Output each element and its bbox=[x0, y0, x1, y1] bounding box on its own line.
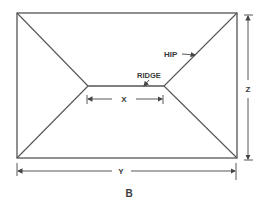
y-dimension bbox=[17, 163, 236, 180]
hip-arrow bbox=[182, 54, 195, 55]
ridge-label: RIDGE bbox=[137, 71, 161, 80]
figure-caption: B bbox=[125, 188, 132, 199]
hip-label: HIP bbox=[164, 50, 178, 59]
x-label: X bbox=[121, 95, 127, 104]
hip-roof-plan-diagram: HIP RIDGE X Z Y B bbox=[0, 0, 266, 204]
z-label: Z bbox=[246, 85, 251, 94]
ridge-arrow bbox=[144, 80, 149, 86]
y-label: Y bbox=[118, 167, 124, 176]
